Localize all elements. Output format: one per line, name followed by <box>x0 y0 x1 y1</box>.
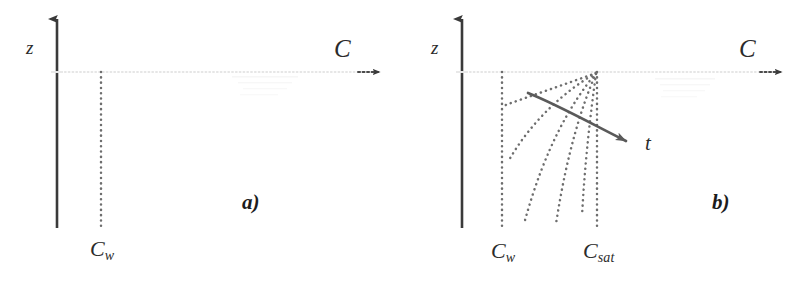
scan-artifact-a <box>232 76 298 95</box>
panel-b-time-arrow <box>528 93 626 141</box>
panel-b-time-arrow-label: t <box>645 133 651 154</box>
panel-a-depth-axis-label: z <box>26 38 33 57</box>
panel-b-depth-axis-label: z <box>431 38 438 57</box>
panel-b-tag: b) <box>712 192 730 213</box>
panel-a-profile-cw-label: Cw <box>90 238 114 263</box>
cw-subscript-a: w <box>105 248 115 263</box>
cw-base-b: C <box>491 238 506 263</box>
csat-subscript-b: sat <box>598 250 615 265</box>
csat-base-b: C <box>583 238 598 263</box>
evolving-profile-4 <box>556 73 596 224</box>
panel-b-profile-cw-label: Cw <box>491 240 515 265</box>
panel-a-group <box>51 19 380 228</box>
evolving-profile-5 <box>582 74 596 216</box>
panel-b-group <box>456 19 782 230</box>
panel-b-evolving-profile-fan <box>503 73 596 224</box>
panel-a-concentration-axis-label: C <box>334 36 351 61</box>
cw-base-a: C <box>90 236 105 261</box>
cw-subscript-b: w <box>506 250 516 265</box>
figure-container: z C Cw a) z C Cw Csat t b) <box>0 0 797 281</box>
panel-b-profile-csat-label: Csat <box>583 240 615 265</box>
panel-b-concentration-axis-label: C <box>739 36 756 61</box>
scan-artifact-b <box>655 78 715 97</box>
diagram-canvas <box>0 0 797 281</box>
panel-a-tag: a) <box>242 192 260 213</box>
